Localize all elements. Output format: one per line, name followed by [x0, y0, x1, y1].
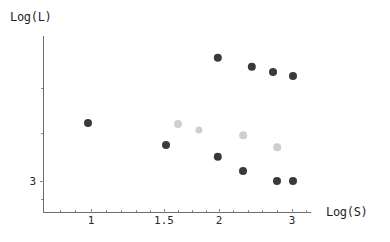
x-tick-minor	[192, 210, 193, 212]
data-point-dark	[239, 167, 247, 175]
data-point-dark	[289, 177, 297, 185]
data-point-dark	[214, 153, 222, 161]
x-tick-label: 1	[88, 214, 95, 227]
x-tick-major	[292, 209, 293, 213]
y-tick-major	[40, 181, 44, 182]
y-tick-label: 3	[20, 175, 36, 188]
x-axis-line	[43, 212, 311, 213]
data-point-dark	[289, 72, 297, 80]
x-tick-minor	[121, 210, 122, 212]
x-tick-minor	[277, 210, 278, 212]
data-point-dark	[162, 141, 170, 149]
data-point-light	[174, 120, 182, 128]
x-tick-minor	[136, 210, 137, 212]
x-tick-major	[91, 209, 92, 213]
x-tick-label: 2	[216, 214, 223, 227]
x-tick-minor	[262, 210, 263, 212]
x-tick-label: 1.5	[154, 214, 174, 227]
x-tick-minor	[178, 210, 179, 212]
x-tick-minor	[150, 210, 151, 212]
y-tick-minor	[41, 199, 43, 200]
x-tick-label: 3	[289, 214, 296, 227]
data-point-dark	[214, 54, 222, 62]
y-axis-line	[43, 36, 44, 213]
x-tick-minor	[60, 210, 61, 212]
data-point-light	[273, 143, 281, 151]
x-tick-minor	[75, 210, 76, 212]
y-tick-minor	[41, 88, 43, 89]
y-axis-title: Log(L)	[10, 10, 52, 24]
y-tick-minor	[41, 133, 43, 134]
x-tick-minor	[106, 210, 107, 212]
x-tick-minor	[233, 210, 234, 212]
x-tick-major	[219, 209, 220, 213]
scatter-plot: 11.523 3 Log(S) Log(L)	[0, 0, 390, 242]
x-axis-title: Log(S)	[326, 205, 368, 219]
data-point-dark	[273, 177, 281, 185]
x-tick-minor	[248, 210, 249, 212]
data-point-dark	[269, 68, 277, 76]
data-point-light	[239, 131, 247, 139]
x-tick-minor	[306, 210, 307, 212]
data-point-dark	[248, 63, 256, 71]
data-point-light	[195, 126, 202, 133]
x-tick-major	[164, 209, 165, 213]
data-point-dark	[84, 119, 92, 127]
x-tick-minor	[206, 210, 207, 212]
